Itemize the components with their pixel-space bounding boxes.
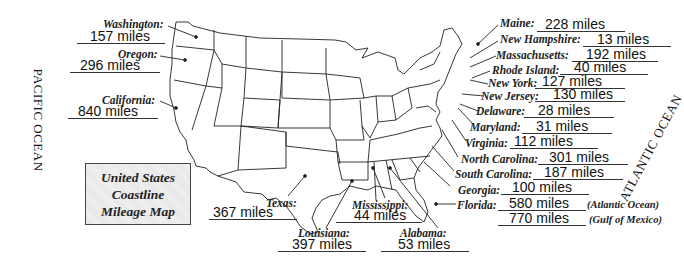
miles-new-hampshire: 13 miles [583,32,671,47]
miles-new-jersey: 130 miles [535,87,625,102]
miles-texas: 367 miles [209,205,297,220]
title-line-1: United States [101,169,175,186]
miles-delaware: 28 miles [524,103,614,118]
label-north-carolina: North Carolina: [461,153,538,165]
pacific-ocean-label: PACIFIC OCEAN [30,64,46,176]
miles-mississippi: 44 miles [336,208,422,223]
label-florida: Florida: [457,199,497,211]
miles-north-carolina: 301 miles [538,150,628,165]
miles-alabama: 53 miles [381,237,469,252]
map-title-box: United States Coastline Mileage Map [85,163,191,225]
label-new-york: New York: [488,77,537,89]
note-florida-gulf: (Gulf of Mexico) [589,214,662,225]
miles-california: 840 miles [68,104,158,119]
label-georgia: Georgia: [458,184,500,196]
label-massachusetts: Massachusetts: [496,49,569,61]
label-virginia: Virginia: [465,137,508,149]
miles-florida-atlantic: 580 miles [498,196,586,211]
label-new-hampshire: New Hampshire: [500,33,581,45]
label-new-jersey: New Jersey: [481,90,539,102]
label-maryland: Maryland: [470,121,520,133]
miles-maryland: 31 miles [522,119,612,134]
label-delaware: Delaware: [476,105,525,117]
miles-virginia: 112 miles [510,134,598,149]
miles-south-carolina: 187 miles [533,165,623,180]
miles-washington: 157 miles [77,29,165,44]
miles-florida-gulf: 770 miles [498,211,586,226]
miles-georgia: 100 miles [501,180,589,195]
label-maine: Maine: [500,17,535,29]
miles-louisiana: 397 miles [278,237,366,252]
title-line-3: Mileage Map [101,203,175,220]
miles-maine: 228 miles [537,17,625,32]
miles-oregon: 296 miles [70,58,160,73]
note-florida-atlantic: (Atlantic Ocean) [587,199,659,210]
title-line-2: Coastline [112,186,165,203]
